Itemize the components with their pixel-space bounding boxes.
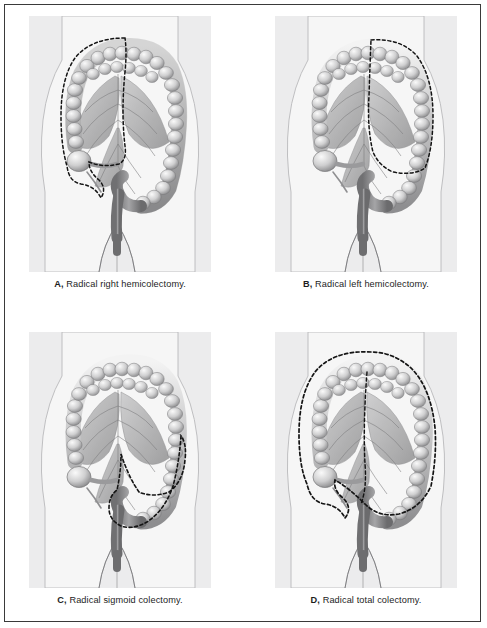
panel-b <box>275 16 457 272</box>
cecum <box>67 151 91 172</box>
terminal-ileum <box>91 480 117 482</box>
caption-b-label: B, <box>303 279 312 289</box>
caption-panel-d: D, Radical total colectomy. <box>275 595 457 605</box>
panel-grid: A, Radical right hemicolectomy. <box>5 5 480 621</box>
caption-c-text: Radical sigmoid colectomy. <box>69 595 182 605</box>
caption-d-label: D, <box>311 595 320 605</box>
panel-b-image <box>275 16 457 272</box>
caption-b-text: Radical left hemicolectomy. <box>315 279 429 289</box>
terminal-ileum <box>337 480 363 482</box>
cecum <box>313 467 337 488</box>
caption-d-text: Radical total colectomy. <box>323 595 422 605</box>
panel-c <box>29 332 211 588</box>
figure-plate: A, Radical right hemicolectomy. <box>4 4 481 622</box>
caption-panel-b: B, Radical left hemicolectomy. <box>275 279 457 289</box>
caption-panel-c: C, Radical sigmoid colectomy. <box>29 595 211 605</box>
terminal-ileum <box>337 164 363 166</box>
caption-c-label: C, <box>57 595 66 605</box>
panel-c-image <box>29 332 211 588</box>
panel-a <box>29 16 211 272</box>
caption-panel-a: A, Radical right hemicolectomy. <box>29 279 211 289</box>
panel-a-image <box>29 16 211 272</box>
caption-a-label: A, <box>54 279 63 289</box>
cecum <box>313 151 337 172</box>
panel-d-image <box>275 332 457 588</box>
panel-d <box>275 332 457 588</box>
cecum <box>67 467 91 488</box>
caption-a-text: Radical right hemicolectomy. <box>66 279 186 289</box>
